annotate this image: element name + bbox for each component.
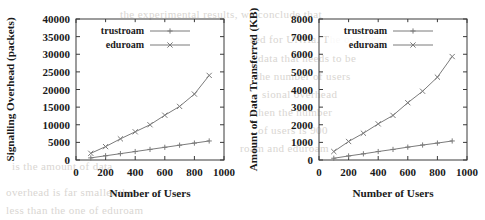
signalling-overhead-chart: 0500010000150002000025000300003500040000… xyxy=(0,0,243,220)
legend-label-trustroam: trustroam xyxy=(101,25,145,36)
data-transferred-chart: 0100020003000400050006000700080000200400… xyxy=(243,0,485,220)
x-axis-tick-label: 200 xyxy=(340,166,357,178)
y-axis-tick-label: 6000 xyxy=(291,48,314,60)
y-axis-tick-label: 20000 xyxy=(43,84,71,96)
x-axis-tick-label: 800 xyxy=(186,166,203,178)
x-axis-tick-label: 400 xyxy=(369,166,386,178)
y-axis-tick-label: 8000 xyxy=(291,13,314,25)
y-axis-tick-label: 7000 xyxy=(291,31,314,43)
x-axis-tick-label: 200 xyxy=(97,166,114,178)
series-line xyxy=(333,57,451,152)
y-axis-tick-label: 25000 xyxy=(43,66,71,78)
legend-label-eduroam: eduroam xyxy=(106,39,145,50)
legend-label-trustroam: trustroam xyxy=(343,25,387,36)
figure-panel-container: 0500010000150002000025000300003500040000… xyxy=(0,0,485,220)
series-trustroam xyxy=(88,138,212,160)
y-axis-tick-label: 30000 xyxy=(43,48,71,60)
x-axis-title: Number of Users xyxy=(109,187,191,199)
y-axis-tick-label: 5000 xyxy=(48,136,71,148)
x-axis-tick-label: 600 xyxy=(399,166,416,178)
legend-label-eduroam: eduroam xyxy=(348,39,387,50)
y-axis-tick-label: 5000 xyxy=(291,66,314,78)
series-line xyxy=(91,75,209,153)
y-axis-tick-label: 2000 xyxy=(291,119,314,131)
x-axis-title: Number of Users xyxy=(352,187,434,199)
y-axis-tick-label: 0 xyxy=(307,154,313,166)
y-axis-tick-label: 3000 xyxy=(291,101,314,113)
y-axis-title: Signalling Overhead (packets) xyxy=(4,17,17,161)
x-axis-tick-label: 0 xyxy=(73,166,79,178)
series-eduroam xyxy=(331,54,455,154)
series-trustroam xyxy=(331,138,455,160)
y-axis-tick-label: 10000 xyxy=(43,119,71,131)
y-axis-tick-label: 4000 xyxy=(291,84,314,96)
x-axis-tick-label: 1000 xyxy=(213,166,236,178)
x-axis-tick-label: 1000 xyxy=(456,166,479,178)
x-axis-tick-label: 800 xyxy=(429,166,446,178)
y-axis-tick-label: 40000 xyxy=(43,13,71,25)
x-axis-tick-label: 400 xyxy=(127,166,144,178)
y-axis-tick-label: 35000 xyxy=(43,31,71,43)
x-axis-tick-label: 0 xyxy=(316,166,322,178)
y-axis-tick-label: 1000 xyxy=(291,136,314,148)
x-axis-tick-label: 600 xyxy=(157,166,174,178)
y-axis-tick-label: 15000 xyxy=(43,101,71,113)
y-axis-tick-label: 0 xyxy=(65,154,71,166)
y-axis-title: Amount of Data Transferred (KB) xyxy=(247,8,260,172)
